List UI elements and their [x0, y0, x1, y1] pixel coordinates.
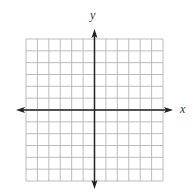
- y-axis-label: y: [90, 9, 95, 21]
- axes: [16, 29, 173, 189]
- coordinate-plane: [0, 0, 195, 196]
- x-axis-label: x: [180, 103, 185, 115]
